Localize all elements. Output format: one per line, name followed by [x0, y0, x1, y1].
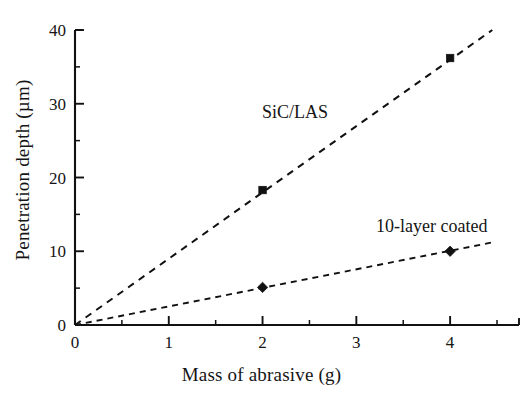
data-point-marker-square	[446, 54, 454, 62]
y-tick-label: 30	[49, 95, 66, 112]
y-tick-label: 0	[58, 317, 67, 334]
y-tick-label: 40	[49, 22, 66, 39]
series-annotation-10-layer-coated: 10-layer coated	[376, 216, 487, 237]
y-tick-label: 20	[49, 169, 66, 186]
series-annotation-sic-las: SiC/LAS	[262, 102, 328, 123]
chart-figure: 01234 010203040 Mass of abrasive (g) Pen…	[0, 0, 523, 402]
x-tick-label: 3	[352, 334, 361, 351]
x-tick-label: 0	[71, 334, 80, 351]
series-trendline-1	[75, 242, 492, 325]
x-tick-label: 4	[446, 334, 455, 351]
ticks-group	[75, 30, 497, 325]
y-axis-title: Penetration depth (µm)	[12, 79, 34, 260]
series-markers-group	[257, 54, 455, 292]
series-trendline-0	[75, 30, 492, 325]
axes-group	[75, 30, 519, 325]
series-lines-group	[75, 30, 492, 325]
x-tick-label: 2	[258, 334, 267, 351]
data-point-marker-diamond	[445, 246, 455, 256]
data-point-marker-diamond	[257, 282, 267, 292]
y-tick-label: 10	[49, 243, 66, 260]
y-axis-title-wrapper: Penetration depth (µm)	[6, 0, 40, 340]
data-point-marker-square	[259, 186, 267, 194]
x-axis-title: Mass of abrasive (g)	[0, 364, 523, 386]
x-tick-label: 1	[165, 334, 174, 351]
